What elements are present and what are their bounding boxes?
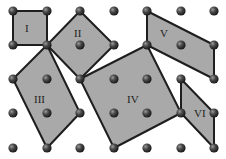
polygon-label: II: [74, 27, 82, 39]
grid-dot: [109, 108, 118, 117]
grid-dot: [176, 6, 185, 15]
grid-dot: [176, 143, 185, 152]
grid-dot: [109, 74, 118, 83]
grid-dot: [142, 6, 151, 15]
grid-dot: [75, 74, 84, 83]
grid-dot: [75, 40, 84, 49]
grid-dot: [176, 40, 185, 49]
grid-dot: [75, 143, 84, 152]
grid-dot: [109, 6, 118, 15]
grid-dot: [75, 108, 84, 117]
polygon-i: [13, 11, 47, 45]
grid-dot: [75, 6, 84, 15]
grid-dot: [209, 143, 218, 152]
grid-dot: [42, 143, 51, 152]
grid-dot: [142, 40, 151, 49]
polygon-label: III: [34, 93, 45, 105]
grid-dot: [176, 74, 185, 83]
grid-dot: [209, 108, 218, 117]
grid-dot: [209, 40, 218, 49]
grid-dot: [209, 74, 218, 83]
polygon-label: I: [25, 22, 29, 34]
grid-dot: [8, 40, 17, 49]
grid-dot: [8, 6, 17, 15]
polygon-label: IV: [127, 93, 139, 105]
grid-dot: [42, 40, 51, 49]
grid-dot: [8, 143, 17, 152]
grid-dot: [176, 108, 185, 117]
polygon-label: VI: [194, 107, 206, 119]
grid-dot: [142, 108, 151, 117]
grid-dot: [8, 108, 17, 117]
grid-dot: [209, 6, 218, 15]
grid-dot: [142, 74, 151, 83]
grid-dot: [142, 143, 151, 152]
polygon-label: V: [160, 27, 168, 39]
grid-dot: [42, 74, 51, 83]
lattice-polygon-diagram: IIIIIIIVVVI: [0, 0, 226, 159]
grid-dot: [109, 40, 118, 49]
grid-dot: [109, 143, 118, 152]
grid-dot: [42, 6, 51, 15]
grid-dot: [42, 108, 51, 117]
grid-dot: [8, 74, 17, 83]
